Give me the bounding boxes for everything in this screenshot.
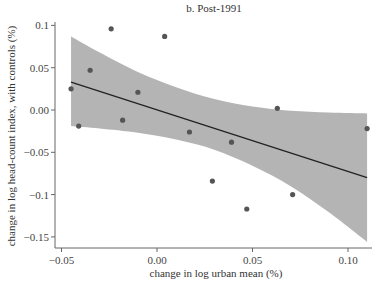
- data-point: [88, 68, 93, 73]
- chart-title: b. Post-1991: [186, 2, 242, 14]
- data-point: [275, 106, 280, 111]
- confidence-band: [71, 36, 367, 242]
- x-tick-label: 0.10: [338, 254, 358, 266]
- data-point: [135, 90, 140, 95]
- data-point: [210, 178, 215, 183]
- y-tick-label: 0.00: [30, 104, 50, 116]
- y-tick-label: 0.05: [30, 62, 50, 74]
- data-point: [290, 192, 295, 197]
- x-axis-title: change in log urban mean (%): [150, 267, 283, 280]
- data-point: [120, 118, 125, 123]
- confidence-band-area: [71, 36, 367, 242]
- y-tick-label: −0.15: [24, 231, 50, 243]
- y-axis-title: change in log head-count index, with con…: [5, 25, 18, 246]
- data-point: [109, 26, 114, 31]
- data-point: [187, 129, 192, 134]
- y-tick-label: −0.1: [29, 189, 49, 201]
- data-point: [162, 34, 167, 39]
- data-point: [68, 86, 73, 91]
- y-tick-label: −0.05: [24, 146, 50, 158]
- x-tick-label: −0.05: [49, 254, 75, 266]
- x-tick-label: 0.00: [147, 254, 167, 266]
- data-point: [365, 126, 370, 131]
- data-point: [229, 140, 234, 145]
- y-tick-label: 0.1: [35, 19, 49, 31]
- data-point: [244, 206, 249, 211]
- scatter-chart: b. Post-1991 0.10.050.00−0.05−0.1−0.15−0…: [0, 0, 379, 286]
- x-tick-label: 0.05: [243, 254, 263, 266]
- data-point: [76, 123, 81, 128]
